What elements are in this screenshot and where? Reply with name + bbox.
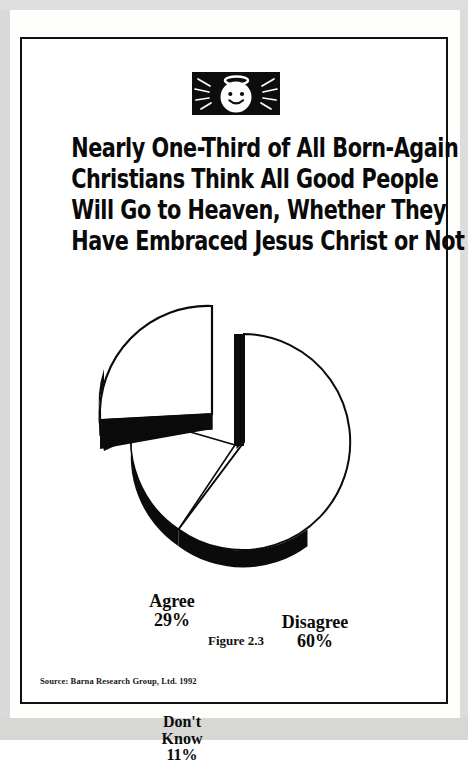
pie-label-agree: Agree 29% (117, 592, 227, 629)
pie-chart: Agree 29% Disagree 60% Don't Know 11% (22, 277, 446, 597)
title-line-2: Christians Think All Good People (71, 164, 401, 195)
figure-frame: Nearly One-Third of All Born-Again Chris… (20, 37, 448, 704)
page-edge-left (0, 0, 10, 740)
title-line-4: Have Embraced Jesus Christ or Not (71, 226, 401, 257)
pie-center-wall (234, 334, 244, 446)
pie-label-agree-pct: 29% (117, 611, 227, 630)
page-edge-right (460, 0, 468, 740)
pie-label-dontknow-line2: Know (132, 731, 232, 748)
figure-title: Nearly One-Third of All Born-Again Chris… (71, 133, 401, 257)
pie-label-disagree-name: Disagree (250, 613, 380, 632)
pie-label-dontknow: Don't Know 11% (132, 714, 232, 764)
title-line-3: Will Go to Heaven, Whether They (71, 195, 401, 226)
source-note: Source: Barna Research Group, Ltd. 1992 (40, 676, 197, 686)
pie-label-dontknow-pct: 11% (132, 747, 232, 764)
halo-smiley-face-icon (192, 72, 280, 115)
page-edge-bottom (0, 718, 468, 740)
page-edge-top (0, 0, 468, 10)
pie-label-dontknow-line1: Don't (132, 714, 232, 731)
pie-label-agree-name: Agree (117, 592, 227, 611)
pie-slice-agree (100, 306, 212, 420)
title-line-1: Nearly One-Third of All Born-Again (71, 133, 401, 164)
figure-caption: Figure 2.3 (22, 633, 450, 649)
